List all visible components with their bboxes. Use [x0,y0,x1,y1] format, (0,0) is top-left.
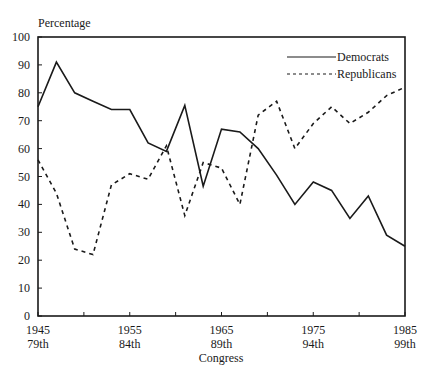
y-tick-label: 20 [18,253,30,267]
series-lines [38,62,405,255]
y-tick-label: 10 [18,281,30,295]
x-tick-year: 1945 [26,323,50,337]
x-axis-label: Congress [199,351,244,365]
x-tick-congress: 84th [119,337,140,351]
y-tick-label: 100 [12,30,30,44]
y-tick-label: 60 [18,142,30,156]
legend-entry-republicans: Republicans [337,67,397,81]
x-tick-congress: 89th [211,337,232,351]
y-tick-label: 40 [18,197,30,211]
y-axis-label: Percentage [38,16,91,30]
line-chart: Percentage 0102030405060708090100 194579… [0,0,433,385]
y-tick-label: 70 [18,114,30,128]
y-tick-label: 50 [18,170,30,184]
x-tick-year: 1955 [118,323,142,337]
legend: DemocratsRepublicans [287,50,397,81]
x-tick-congress: 94th [303,337,324,351]
y-tick-label: 30 [18,225,30,239]
x-tick-year: 1975 [301,323,325,337]
series-democrats [38,62,405,246]
y-tick-label: 80 [18,86,30,100]
x-tick-year: 1965 [210,323,234,337]
y-tick-label: 0 [24,309,30,323]
x-tick-congress: 99th [394,337,415,351]
x-axis-ticks: 194579th195584th196589th197594th198599th [26,312,417,351]
series-republicans [38,87,405,254]
legend-entry-democrats: Democrats [337,50,389,64]
x-tick-congress: 79th [27,337,48,351]
x-tick-year: 1985 [393,323,417,337]
y-tick-label: 90 [18,58,30,72]
